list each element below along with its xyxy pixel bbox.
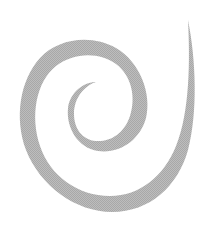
spiral-canvas xyxy=(0,0,224,228)
spiral-icon xyxy=(20,20,195,212)
spiral-graphic xyxy=(0,0,224,228)
